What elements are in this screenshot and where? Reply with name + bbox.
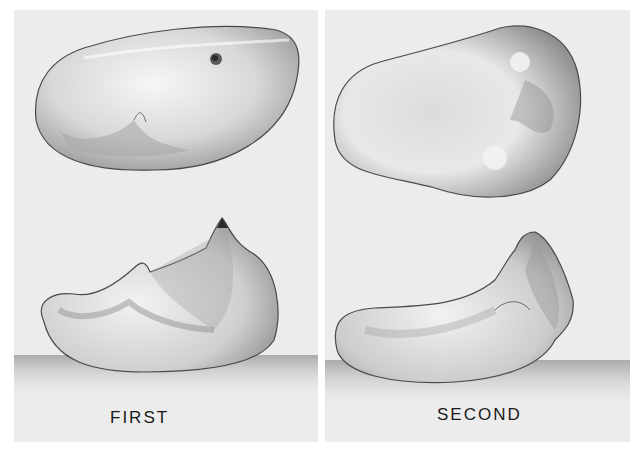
tooth-second-occlusal <box>334 26 581 197</box>
panel-second <box>325 10 630 442</box>
tooth-first-occlusal <box>36 26 299 170</box>
panel-label-first: FIRST <box>110 408 169 428</box>
caption-fragment <box>60 448 620 463</box>
panel-first <box>14 10 318 442</box>
tooth-second-illustration <box>325 10 630 442</box>
panel-label-second: SECOND <box>437 405 522 425</box>
tooth-first-illustration <box>14 10 318 442</box>
tooth-first-lateral <box>14 218 318 400</box>
tooth-second-lateral <box>325 232 630 410</box>
